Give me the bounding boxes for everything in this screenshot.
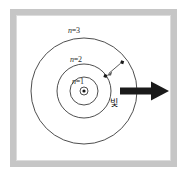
emitted-light-arrow (120, 82, 169, 101)
orbit-label-n1: n=1 (72, 77, 84, 86)
orbit-label-n3: n=3 (68, 26, 80, 35)
orbit-label-n2-suffix: =2 (74, 55, 82, 64)
light-label: 빛 (110, 96, 118, 109)
diagram-canvas (0, 0, 189, 179)
electron-dot-n3 (120, 60, 124, 64)
nucleus-core-dot (82, 89, 85, 92)
electron-transition-arrow (107, 63, 121, 75)
orbit-label-n2: n=2 (70, 55, 82, 64)
bohr-model-figure: n=3 n=2 n=1 빛 (0, 0, 189, 179)
orbit-label-n1-suffix: =1 (76, 77, 84, 86)
orbit-label-n3-suffix: =3 (72, 26, 80, 35)
